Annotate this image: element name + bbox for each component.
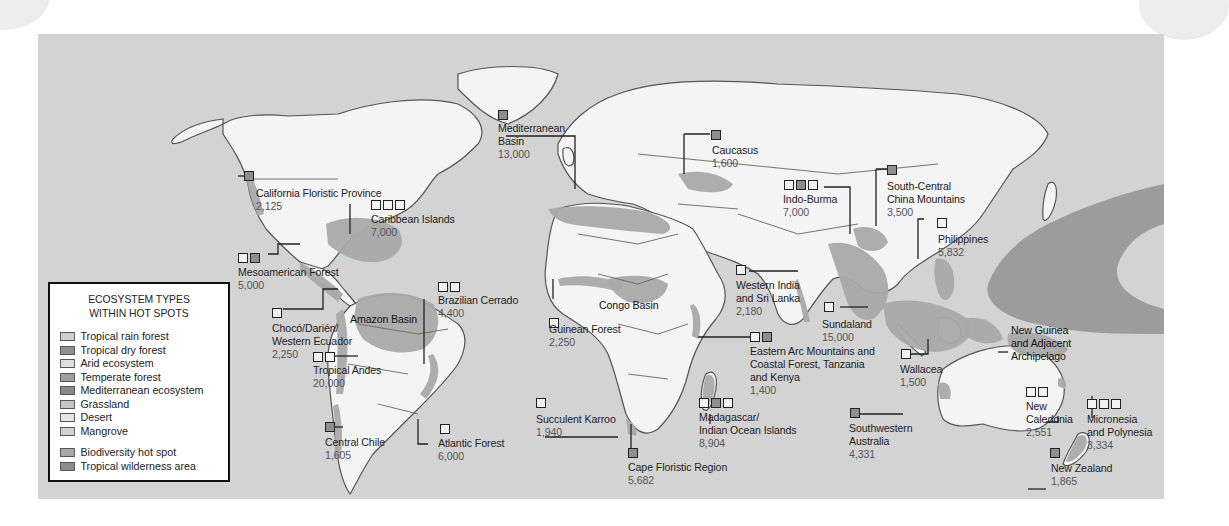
swatch-icon xyxy=(60,448,75,457)
sundaland-hotspot xyxy=(883,300,971,352)
label-wallacea[interactable]: Wallacea1,500 xyxy=(900,363,942,389)
marker-california[interactable] xyxy=(244,171,256,182)
label-sundaland[interactable]: Sundaland15,000 xyxy=(822,318,872,344)
marker-new-caledonia[interactable] xyxy=(1026,387,1050,398)
rain-forest-marker-icon xyxy=(750,332,760,342)
desert-marker-icon xyxy=(536,398,546,408)
rain-forest-marker-icon xyxy=(440,424,450,434)
swatch-icon xyxy=(60,346,75,355)
dry-forest-marker-icon xyxy=(711,398,721,408)
rain-forest-marker-icon xyxy=(238,253,248,263)
legend-item-desert: Desert xyxy=(60,411,216,425)
dry-forest-marker-icon xyxy=(1099,399,1109,409)
leader-atlantic xyxy=(418,419,428,444)
arid-marker-icon xyxy=(723,398,733,408)
rain-forest-marker-icon xyxy=(272,308,282,318)
legend-item-mangrove: Mangrove xyxy=(60,425,216,439)
dry-forest-marker-icon xyxy=(250,253,260,263)
marker-new-zealand[interactable] xyxy=(1050,448,1062,459)
marker-madagascar[interactable] xyxy=(699,398,735,409)
swatch-icon xyxy=(60,462,75,471)
marker-sw-australia[interactable] xyxy=(850,408,862,419)
label-california[interactable]: California Floristic Province2,125 xyxy=(256,187,382,213)
mangrove-marker-icon xyxy=(808,180,818,190)
swatch-icon xyxy=(60,373,75,382)
rain-forest-marker-icon xyxy=(736,265,746,275)
label-sw-australia[interactable]: SouthwesternAustralia4,331 xyxy=(849,422,913,461)
dry-forest-marker-icon xyxy=(383,200,393,210)
label-south-central-china[interactable]: South-CentralChina Mountains3,500 xyxy=(887,180,965,219)
swatch-icon xyxy=(60,332,75,341)
marker-cape[interactable] xyxy=(628,448,640,459)
legend-item-tropical-rain-forest: Tropical rain forest xyxy=(60,330,216,344)
label-andes[interactable]: Tropical Andes20,000 xyxy=(313,364,381,390)
label-eastern-arc[interactable]: Eastern Arc Mountains andCoastal Forest,… xyxy=(750,345,875,397)
marker-mediterranean[interactable] xyxy=(498,110,510,121)
marker-western-india[interactable] xyxy=(736,265,748,276)
label-guinean[interactable]: Guinean Forest2,250 xyxy=(549,323,621,349)
alaska xyxy=(172,119,223,144)
label-karroo[interactable]: Succulent Karroo1,940 xyxy=(536,413,616,439)
marker-micronesia[interactable] xyxy=(1087,399,1123,410)
legend-item-tropical-wilderness-area: Tropical wilderness area xyxy=(60,460,216,474)
japan xyxy=(1043,182,1057,220)
label-indo-burma[interactable]: Indo-Burma7,000 xyxy=(783,193,837,219)
label-mediterranean[interactable]: MediterraneanBasin13,000 xyxy=(498,122,565,161)
grassland-marker-icon xyxy=(450,282,460,292)
marker-mesoamerica[interactable] xyxy=(238,253,262,264)
legend-item-temperate-forest: Temperate forest xyxy=(60,371,216,385)
legend-item-biodiversity-hot-spot: Biodiversity hot spot xyxy=(60,446,216,460)
swatch-icon xyxy=(60,359,75,368)
label-madagascar[interactable]: Madagascar/Indian Ocean Islands8,904 xyxy=(699,411,797,450)
marker-karroo[interactable] xyxy=(536,398,548,409)
wallacea-hotspot xyxy=(963,318,1003,344)
label-western-india[interactable]: Western Indiaand Sri Lanka2,180 xyxy=(736,279,800,318)
label-micronesia[interactable]: Micronesiaand Polynesia3,334 xyxy=(1087,413,1152,452)
label-congo[interactable]: Congo Basin xyxy=(599,299,659,312)
label-cerrado[interactable]: Brazilian Cerrado4,400 xyxy=(438,294,518,320)
marker-philippines[interactable] xyxy=(937,218,949,229)
marker-andes[interactable] xyxy=(313,352,337,363)
marker-south-central-china[interactable] xyxy=(887,165,899,176)
marker-sundaland[interactable] xyxy=(824,302,836,313)
marker-caribbean[interactable] xyxy=(371,200,407,211)
marker-atlantic[interactable] xyxy=(440,424,452,435)
mangrove-marker-icon xyxy=(1111,399,1121,409)
dry-forest-marker-icon xyxy=(796,180,806,190)
dry-forest-marker-icon xyxy=(1038,387,1048,397)
marker-caucasus[interactable] xyxy=(711,130,723,141)
hotspot-marker-icon xyxy=(244,171,254,181)
legend-item-tropical-dry-forest: Tropical dry forest xyxy=(60,344,216,358)
pacific-wilderness-area xyxy=(987,184,1164,334)
swatch-icon xyxy=(60,427,75,436)
label-new-caledonia[interactable]: NewCaledonia2,551 xyxy=(1026,400,1073,439)
label-mesoamerica[interactable]: Mesoamerican Forest5,000 xyxy=(238,266,339,292)
label-caribbean[interactable]: Caribbean Islands7,000 xyxy=(371,213,455,239)
label-new-guinea[interactable]: New Guineaand AdjacentArchipelago xyxy=(1011,324,1071,363)
legend-title: ECOSYSTEM TYPES WITHIN HOT SPOTS xyxy=(59,292,219,320)
legend-item-arid-ecosystem: Arid ecosystem xyxy=(60,357,216,371)
label-caucasus[interactable]: Caucasus1,600 xyxy=(712,144,758,170)
rain-forest-marker-icon xyxy=(1026,387,1036,397)
rain-forest-marker-icon xyxy=(824,302,834,312)
page-corner-decoration xyxy=(0,0,50,30)
label-amazon[interactable]: Amazon Basin xyxy=(350,313,417,326)
marker-indo-burma[interactable] xyxy=(784,180,820,191)
legend-item-mediterranean-ecosystem: Mediterranean ecosystem xyxy=(60,384,216,398)
label-atlantic[interactable]: Atlantic Forest6,000 xyxy=(438,437,504,463)
legend-item-grassland: Grassland xyxy=(60,398,216,412)
marker-choco[interactable] xyxy=(272,308,284,319)
label-philippines[interactable]: Philippines5,832 xyxy=(938,233,988,259)
marker-wallacea[interactable] xyxy=(901,349,913,360)
mediterranean-marker-icon xyxy=(498,110,508,120)
label-chile[interactable]: Central Chile1,605 xyxy=(325,436,385,462)
label-cape[interactable]: Cape Floristic Region5,682 xyxy=(628,461,727,487)
marker-chile[interactable] xyxy=(325,422,337,433)
marker-eastern-arc[interactable] xyxy=(750,332,774,343)
marker-cerrado[interactable] xyxy=(438,282,462,293)
temperate-forest-marker-icon xyxy=(711,130,721,140)
philippines-hotspot xyxy=(934,259,954,300)
label-new-zealand[interactable]: New Zealand1,865 xyxy=(1051,462,1112,488)
swatch-icon xyxy=(60,386,75,395)
map-legend: ECOSYSTEM TYPES WITHIN HOT SPOTS Tropica… xyxy=(48,282,230,482)
